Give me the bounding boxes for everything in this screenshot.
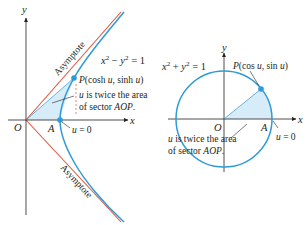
vertex-label: A [47,123,55,134]
origin-label: O [14,122,22,133]
axis-y-label-circle: y [221,42,227,53]
annotation-line-2: of sector AOP. [79,102,135,112]
axis-x-label-circle: x [297,114,303,125]
hyperbola-panel: y x O A u = 0 x2 − y2 = 1 P(cosh u, sinh… [8,4,148,222]
equation-label-circle: x2 + y2 = 1 [161,60,206,72]
leader-p-circle [250,71,259,86]
equation-label: x2 − y2 = 1 [100,54,145,66]
origin-label-circle: O [214,122,222,133]
vertex-label-circle: A [260,122,268,133]
annotation-line-2-circle: of sector AOP. [168,146,224,156]
asymptote-upper-label: Asymptote [52,39,87,77]
annotation-line-1-circle: u is twice the area [168,134,237,144]
leader-u-zero [62,122,70,128]
point-p [71,75,77,81]
u-zero-label-circle: u = 0 [276,132,296,142]
annotation-line-1: u is twice the area [79,90,148,100]
point-p-circle [258,86,264,92]
axis-y-label: y [21,4,27,15]
point-p-label-circle: P(cos u, sin u) [232,61,288,72]
u-zero-label: u = 0 [72,125,92,135]
axis-x-label: x [129,115,135,126]
leader-u-zero-circle [273,121,278,128]
point-a [57,117,63,123]
diagram-canvas: y x O A u = 0 x2 − y2 = 1 P(cosh u, sinh… [0,0,308,225]
asymptote-lower-label: Asymptote [59,163,95,200]
point-p-label: P(cosh u, sinh u) [78,75,143,86]
circle-panel: y x O A x2 + y2 = 1 P(cos u, sin u) u = … [161,42,303,172]
